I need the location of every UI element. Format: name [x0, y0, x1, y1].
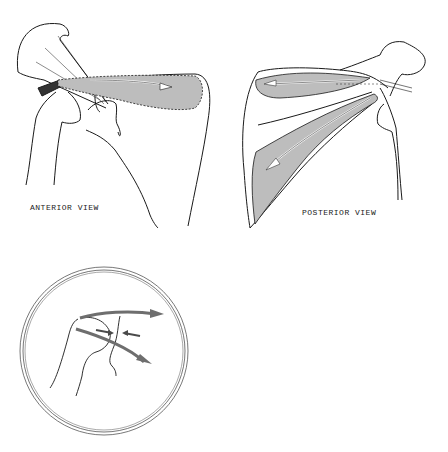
inset-circle — [20, 267, 188, 435]
anterior-view-label: ANTERIOR VIEW — [30, 203, 99, 212]
anterior-view-drawing — [17, 23, 209, 228]
anatomy-diagram — [0, 0, 448, 452]
inset-joint-drawing — [50, 316, 120, 396]
posterior-view-label: POSTERIOR VIEW — [302, 208, 376, 217]
